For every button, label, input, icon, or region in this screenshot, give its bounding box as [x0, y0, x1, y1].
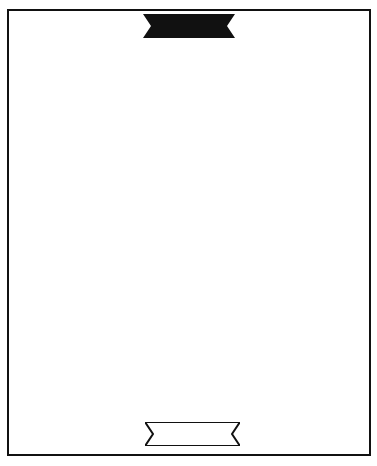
backgammon-board	[0, 0, 377, 466]
